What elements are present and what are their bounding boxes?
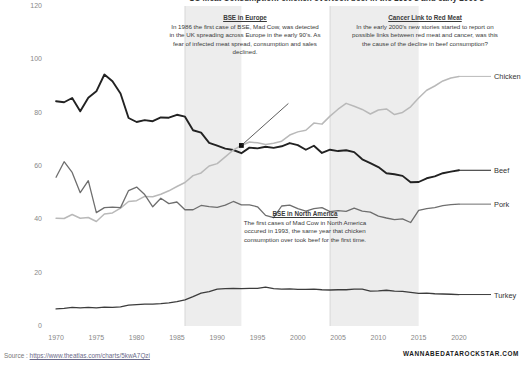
annotation-bse-na-heading: BSE in North America — [243, 210, 367, 218]
annotation-cancer-heading: Cancer Link to Red Meat — [352, 14, 498, 22]
x-tick-2005: 2005 — [318, 334, 358, 341]
x-tick-1980: 1980 — [117, 334, 157, 341]
annotation-cancer-body: In the early 2000's new stories started … — [352, 23, 498, 48]
y-tick-20: 20 — [18, 269, 42, 276]
x-tick-2010: 2010 — [358, 334, 398, 341]
annotation-bse-europe-heading: BSE in Europe — [168, 14, 322, 22]
series-label-chicken: Chicken — [494, 72, 521, 81]
x-tick-1975: 1975 — [76, 334, 116, 341]
annotation-bse-north-america: BSE in North America The first cases of … — [243, 210, 367, 244]
x-tick-1970: 1970 — [36, 334, 76, 341]
watermark: WANNABEDATAROCKSTAR.COM — [403, 350, 519, 357]
x-tick-2000: 2000 — [278, 334, 318, 341]
x-tick-2020: 2020 — [439, 334, 479, 341]
y-tick-120: 120 — [18, 2, 42, 9]
series-label-pork: Pork — [494, 200, 509, 209]
page-title: US Meat Consumption: chicken overtook be… — [150, 0, 523, 3]
y-tick-100: 100 — [18, 55, 42, 62]
y-tick-0: 0 — [18, 322, 42, 329]
callout-arrow — [241, 103, 288, 145]
series-label-turkey: Turkey — [494, 291, 516, 300]
x-tick-2015: 2015 — [399, 334, 439, 341]
series-label-beef: Beef — [494, 166, 509, 175]
x-tick-1995: 1995 — [238, 334, 278, 341]
source-link[interactable]: https://www.theatlas.com/charts/5kwA7Qzi — [30, 352, 150, 359]
source-line: Source : https://www.theatlas.com/charts… — [4, 352, 150, 359]
annotation-bse-europe: BSE in Europe In 1986 the first case of … — [168, 14, 322, 56]
x-tick-1985: 1985 — [157, 334, 197, 341]
annotation-bse-na-body: The first cases of Mad Cow in North Amer… — [243, 219, 367, 244]
source-prefix: Source : — [4, 352, 30, 359]
chart-page: US Meat Consumption: chicken overtook be… — [0, 0, 523, 366]
y-tick-80: 80 — [18, 109, 42, 116]
annotation-bse-europe-body: In 1986 the first case of BSE, Mad Cow, … — [168, 23, 322, 56]
annotation-cancer-red-meat: Cancer Link to Red Meat In the early 200… — [352, 14, 498, 48]
y-tick-40: 40 — [18, 215, 42, 222]
x-tick-1990: 1990 — [197, 334, 237, 341]
y-tick-60: 60 — [18, 162, 42, 169]
